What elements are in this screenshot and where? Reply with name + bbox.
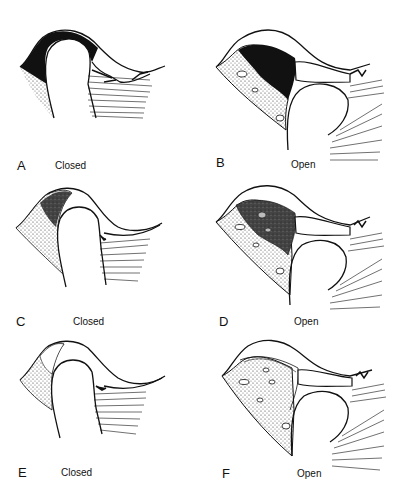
tmj-open-diagram-b xyxy=(200,0,401,160)
panel-state-label: Closed xyxy=(61,467,92,478)
panel-letter: C xyxy=(16,314,25,329)
panel-f: F Open xyxy=(200,330,401,499)
panel-letter: D xyxy=(219,314,228,329)
tmj-closed-diagram-e xyxy=(0,330,200,480)
panel-state-label: Open xyxy=(294,316,318,327)
panel-d: D Open xyxy=(200,165,401,335)
tmj-open-diagram-d xyxy=(200,165,401,315)
panel-e: E Closed xyxy=(0,330,200,499)
tmj-closed-diagram-c xyxy=(0,165,200,315)
panel-letter: F xyxy=(222,466,230,481)
panel-state-label: Closed xyxy=(73,316,104,327)
tmj-open-diagram-f xyxy=(200,330,401,480)
panel-c: C Closed xyxy=(0,165,200,335)
panel-letter: E xyxy=(18,465,27,480)
panel-a: A Closed xyxy=(0,0,200,180)
tmj-closed-diagram-a xyxy=(0,0,200,160)
panel-state-label: Open xyxy=(297,468,321,479)
panel-b: B Open xyxy=(200,0,401,180)
